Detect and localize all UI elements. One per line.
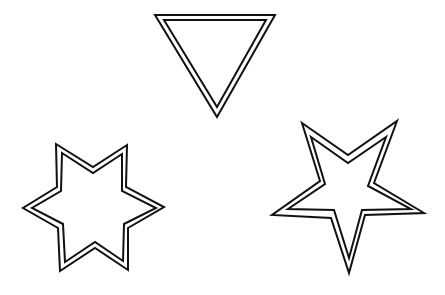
- triangle-outer-outline: [155, 15, 275, 117]
- six-pointed-star: [23, 144, 164, 271]
- triangle-inner-outline: [164, 20, 266, 107]
- pentagram-outer-outline: [272, 121, 424, 273]
- hexagram-inner-outline: [32, 153, 156, 262]
- hexagram-outer-outline: [23, 144, 164, 271]
- inverted-triangle: [155, 15, 275, 117]
- five-pointed-star: [272, 121, 424, 273]
- shapes-canvas: [0, 0, 445, 295]
